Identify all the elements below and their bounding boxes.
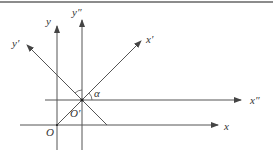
label-origin-prime: O′ <box>70 107 81 119</box>
label-alpha: α <box>94 87 100 99</box>
right-angle-arc <box>75 90 82 93</box>
label-origin: O <box>46 126 54 138</box>
x-prime-axis <box>56 41 141 126</box>
label-y: y <box>45 15 51 27</box>
label-x-double-prime: x″ <box>249 94 260 106</box>
alpha-angle-arc <box>89 93 92 100</box>
coordinate-diagram: y y″ y′ x′ x″ x α O O′ <box>0 0 273 161</box>
origin-point <box>56 124 58 126</box>
y-prime-axis <box>27 45 107 125</box>
label-y-prime: y′ <box>11 37 20 49</box>
label-x: x <box>223 120 229 132</box>
label-x-prime: x′ <box>145 33 154 45</box>
origin-prime-point <box>80 98 83 101</box>
label-y-double-prime: y″ <box>71 6 82 18</box>
